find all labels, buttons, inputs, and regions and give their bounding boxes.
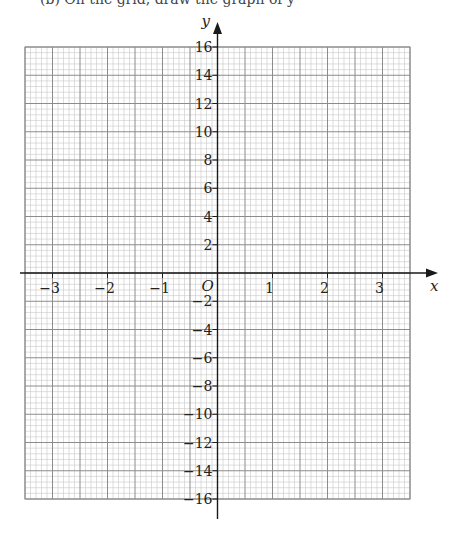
x-tick-label: −2 (94, 280, 115, 296)
y-tick-label: −8 (192, 378, 213, 394)
x-tick-label: 2 (320, 280, 329, 296)
y-axis-label: y (201, 12, 211, 30)
y-axis-arrow-icon (213, 22, 222, 34)
y-tick-label: 12 (195, 96, 213, 112)
y-tick-label: 16 (195, 39, 213, 55)
y-tick-label: −10 (183, 406, 213, 422)
x-tick-label: −1 (149, 280, 170, 296)
x-tick-label: 1 (265, 280, 274, 296)
y-tick-label: −6 (192, 350, 213, 366)
y-tick-label: 6 (204, 180, 213, 196)
y-tick-label: −14 (183, 463, 213, 479)
y-tick-label: −2 (192, 293, 213, 309)
caption-fragment: (b) On the grid, draw the graph of y (40, 0, 295, 7)
x-tick-label: 3 (375, 280, 384, 296)
graph-paper-chart: (b) On the grid, draw the graph of y −3−… (0, 0, 467, 538)
x-axis-label: x (430, 277, 439, 295)
x-tick-label: −3 (39, 280, 60, 296)
y-tick-label: 8 (204, 152, 213, 168)
y-tick-label: 4 (204, 209, 213, 225)
axes (20, 22, 438, 519)
y-tick-label: −16 (183, 491, 213, 507)
y-tick-label: −12 (183, 435, 213, 451)
y-tick-label: −4 (192, 322, 213, 338)
origin-label: O (202, 277, 214, 295)
y-tick-label: 14 (195, 67, 213, 83)
y-tick-label: 2 (204, 237, 213, 253)
y-tick-label: 10 (195, 124, 213, 140)
